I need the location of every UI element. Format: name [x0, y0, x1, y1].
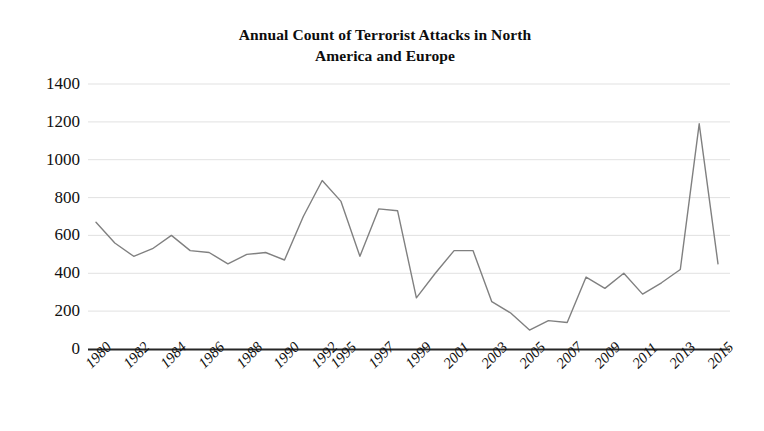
y-tick-label-400: 400	[18, 264, 80, 281]
chart-figure: Annual Count of Terrorist Attacks in Nor…	[0, 0, 764, 431]
y-tick-label-0: 0	[18, 340, 80, 357]
y-tick-label-600: 600	[18, 226, 80, 243]
y-tick-label-1000: 1000	[18, 151, 80, 168]
y-tick-label-800: 800	[18, 189, 80, 206]
series-line-group	[96, 124, 718, 330]
gridlines	[88, 84, 730, 311]
series-line-total-attacks	[96, 124, 718, 330]
y-tick-label-1400: 1400	[18, 75, 80, 92]
y-tick-label-1200: 1200	[18, 113, 80, 130]
plot-area: 1400120010008006004002000 19801982198419…	[0, 0, 764, 431]
y-tick-label-200: 200	[18, 302, 80, 319]
